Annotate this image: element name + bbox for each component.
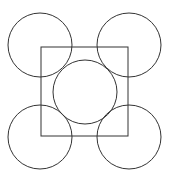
circle-bottom-right	[97, 105, 161, 169]
circles-group	[8, 13, 161, 169]
circle-top-left	[8, 13, 72, 77]
circle-bottom-left	[8, 105, 72, 169]
diagram-canvas	[0, 0, 171, 180]
circle-top-right	[97, 13, 161, 77]
